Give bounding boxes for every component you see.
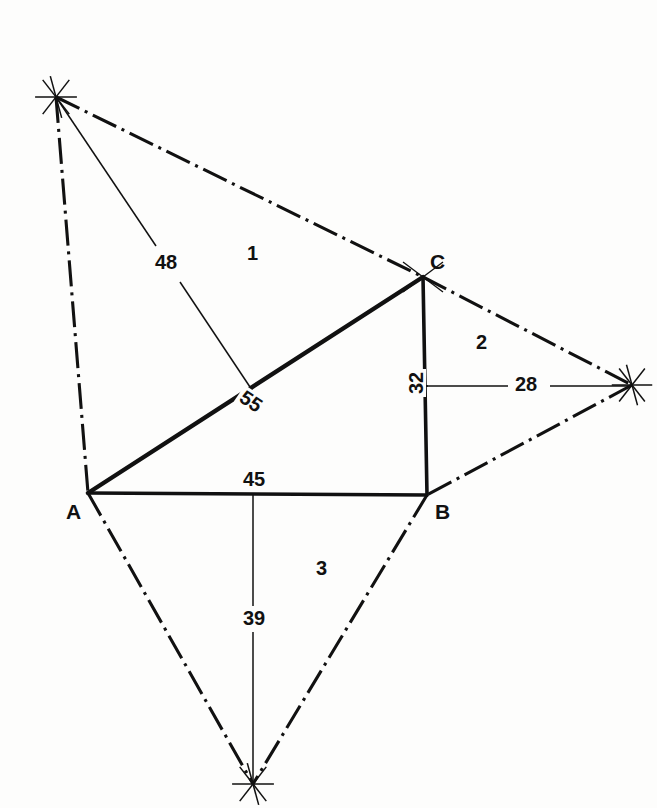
dimension-leader-lines (56, 97, 630, 782)
vertex-label-c: C (430, 251, 445, 272)
region-label-3: 3 (316, 558, 327, 578)
boundary-topleft-to-c (56, 97, 423, 277)
station-marker-right (612, 365, 652, 405)
dimension-label-28: 28 (512, 374, 540, 394)
triangle-side-ac (88, 277, 423, 493)
boundary-topleft-to-a (56, 97, 88, 493)
triangle-side-ab (88, 493, 427, 495)
technical-drawing-canvas: A B C 1 2 3 48 55 45 32 28 39 (0, 0, 657, 808)
region-boundary-lines (56, 97, 632, 784)
boundary-right-to-b (427, 385, 632, 495)
dimension-label-45: 45 (240, 469, 268, 489)
dimension-label-39: 39 (240, 608, 268, 628)
station-markers (35, 76, 652, 805)
vertex-label-a: A (66, 501, 81, 522)
boundary-a-to-bottom (88, 493, 253, 784)
region-label-1: 1 (247, 243, 258, 263)
vertex-label-b: B (435, 501, 450, 522)
boundary-b-to-bottom (253, 495, 427, 784)
leader-48-lower (180, 282, 252, 390)
diagram-svg (0, 0, 657, 808)
leader-48-upper (56, 97, 156, 246)
boundary-c-to-right (423, 277, 632, 385)
dimension-label-48: 48 (152, 252, 180, 272)
dimension-label-32: 32 (406, 369, 426, 397)
triangle-abc (88, 277, 427, 495)
region-label-2: 2 (476, 332, 487, 352)
